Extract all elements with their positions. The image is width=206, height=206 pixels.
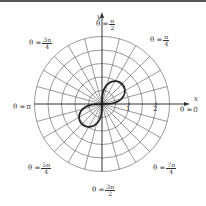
grid-radial-line	[102, 70, 160, 104]
grid-radial-line	[85, 104, 102, 169]
grid-radial-line	[102, 104, 160, 138]
grid-radial-line	[102, 56, 150, 104]
angle-label-0: θ = 0	[180, 107, 198, 114]
x-axis-label: x	[194, 96, 198, 103]
angle-label-pi: θ = π	[13, 104, 31, 111]
grid-radial-line	[37, 87, 102, 104]
angle-label-7pi-4: θ = 7π4	[153, 162, 176, 175]
grid-radial-line	[102, 46, 136, 104]
grid-radial-line	[44, 104, 102, 138]
grid-radial-line	[102, 87, 167, 104]
grid-radial-line	[54, 56, 102, 104]
grid-radial-line	[102, 39, 119, 104]
grid-radial-line	[54, 104, 102, 152]
angle-label-3pi-2: θ = 3π2	[92, 184, 115, 197]
angle-label-5pi-4: θ = 5π4	[28, 162, 51, 175]
grid-radial-line	[68, 104, 102, 162]
angle-label-3pi-4: θ = 3π4	[29, 37, 52, 50]
tick-label-1: 1	[126, 106, 130, 113]
grid-radial-line	[102, 104, 119, 169]
angle-label-pi-2: θ = π2	[96, 18, 115, 31]
angle-label-pi-4: θ = π4	[150, 34, 169, 47]
grid-radial-line	[85, 39, 102, 104]
tick-label-2: 2	[153, 106, 157, 113]
grid-radial-line	[102, 104, 136, 162]
grid-radial-line	[44, 70, 102, 104]
grid-radial-line	[37, 104, 102, 121]
grid-radial-line	[68, 46, 102, 104]
